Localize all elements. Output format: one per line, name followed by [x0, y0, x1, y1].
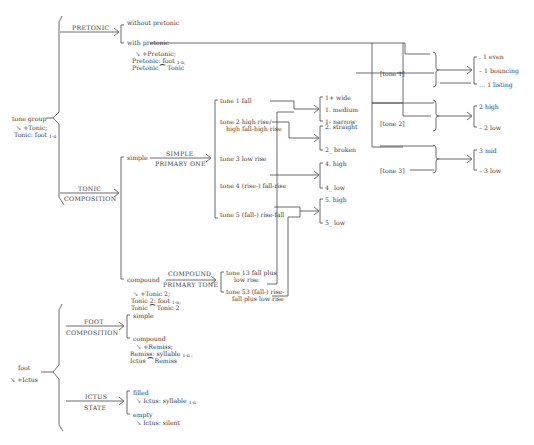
- foot-rule: ↘ +Ictus: [10, 376, 38, 383]
- compound-system-label-2: PRIMARY TONE: [163, 281, 218, 288]
- tone-1-fall: tone 1 fall: [220, 97, 252, 104]
- tone-group-rule-1: ↘ +Tonic;: [16, 124, 47, 131]
- tone-5-rise-fall: tone 5 (fall-) rise-fall: [220, 211, 284, 218]
- secondary-5-high: 5. high: [325, 196, 347, 203]
- ictus-system-label-2: STATE: [84, 404, 106, 411]
- pretonic-1-listing: … 1 listing: [479, 81, 513, 88]
- tone-group-label: tone group: [12, 115, 46, 122]
- tonic-system-label-1: TONIC: [78, 185, 101, 192]
- foot-compound-option: compound: [133, 335, 166, 342]
- foot-compound-rule-3: Ictus ⁀ Remiss: [130, 357, 177, 364]
- tone-53-line-2: fall plus low rise: [232, 295, 284, 302]
- pretonic-tone-1-label: [tone 1]: [380, 70, 405, 77]
- tone-3-low-rise: tone 3 low rise: [220, 155, 266, 162]
- secondary-1-wide: 1+ wide: [325, 94, 351, 101]
- compound-rule-1: ↘ +Tonic 2;: [133, 290, 170, 297]
- tone-2-line-2: high fall-high rise: [226, 125, 282, 132]
- simple-system-label-1: SIMPLE: [166, 150, 194, 157]
- compound-system-label-1: COMPOUND: [168, 270, 211, 277]
- secondary-1-medium: 1. medium: [325, 106, 358, 113]
- tone-13-line-2: low rise: [234, 276, 259, 283]
- pretonic-tone-3-label: [tone 3]: [380, 167, 405, 174]
- with-pretonic-option: with pretonic: [127, 39, 169, 46]
- pretonic-system-label: PRETONIC: [72, 24, 110, 31]
- secondary-4-low: 4_ low: [325, 184, 345, 191]
- pretonic-1-bouncing: – 1 bouncing: [479, 67, 519, 74]
- tone-4-fall-rise: tone 4 (rise-) fall-rise: [220, 182, 286, 189]
- secondary-5-low: 5_ low: [325, 219, 345, 226]
- compound-rule-3: Tonic ⁀ Tonic 2: [131, 304, 179, 311]
- without-pretonic-option: without pretonic: [127, 19, 179, 26]
- pretonic-2-high: 2 high: [479, 103, 499, 110]
- ictus-system-label-1: ICTUS: [85, 393, 107, 400]
- pretonic-2-low: – 2 low: [479, 124, 501, 131]
- pretonic-1-even: . 1 even: [479, 53, 504, 60]
- tone-53-line-1: tone 53 (fall-) rise-: [226, 288, 284, 295]
- foot-simple-option: simple: [133, 312, 154, 319]
- foot-composition-label-1: FOOT: [84, 318, 104, 325]
- tone-13-line-1: tone 13 fall plus: [226, 269, 277, 276]
- foot-composition-label-2: COMPOSITION: [66, 329, 118, 336]
- tonic-system-label-2: COMPOSITION: [64, 195, 116, 202]
- ictus-empty-rule: ↘ Ictus: silent: [136, 419, 180, 426]
- secondary-2-straight: 2. straight: [325, 123, 358, 130]
- pretonic-rule-1: ↘ +Pretonic;: [135, 50, 176, 57]
- simple-system-label-2: PRIMARY ONE: [155, 160, 206, 167]
- ictus-empty-option: empty: [133, 411, 152, 418]
- ictus-filled-rule: ↘ Ictus: syllable 1-n: [136, 397, 196, 406]
- ictus-filled-option: filled: [133, 389, 149, 396]
- tone-group-brace: [53, 16, 64, 205]
- pretonic-3-mid: 3 mid: [479, 147, 497, 154]
- pretonic-3-low: – 3 low: [479, 167, 501, 174]
- network-lines: [0, 0, 534, 445]
- simple-option: simple: [127, 154, 148, 161]
- pretonic-rule-3: Pretonic ⁀ Tonic: [132, 64, 184, 71]
- foot-label: foot: [18, 364, 30, 371]
- pretonic-tone-2-label: [tone 2]: [380, 120, 405, 127]
- foot-compound-rule-1: ↘ +Remiss;: [136, 343, 173, 350]
- tone-group-rule-2: Tonic: foot 1-n: [14, 131, 56, 140]
- system-network-diagram: tone group ↘ +Tonic; Tonic: foot 1-n PRE…: [0, 0, 534, 445]
- secondary-4-high: 4. high: [325, 160, 347, 167]
- tone-2-line-1: tone 2 high rise/: [220, 118, 271, 125]
- compound-option: compound: [127, 276, 160, 283]
- secondary-2-broken: 2_ broken: [325, 146, 356, 153]
